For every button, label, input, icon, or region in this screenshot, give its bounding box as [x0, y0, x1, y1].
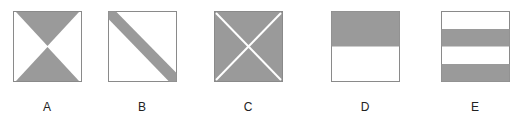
figure-d-label: D: [345, 100, 385, 114]
figure-d: [331, 11, 400, 82]
figure-c-label: C: [228, 100, 268, 114]
figure-b-label: B: [122, 100, 162, 114]
figure-b: [108, 11, 177, 82]
figure-e: [441, 11, 510, 82]
figure-c: [214, 11, 283, 82]
figure-a: [13, 11, 82, 82]
figure-e-label: E: [455, 100, 495, 114]
figure-a-label: A: [27, 100, 67, 114]
